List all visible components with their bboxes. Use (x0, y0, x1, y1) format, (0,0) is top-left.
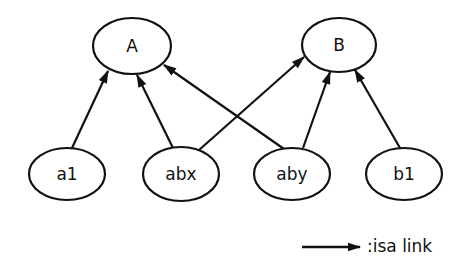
isa-link-aby-to-A (164, 65, 284, 149)
node-label: abx (165, 164, 196, 184)
node-label: a1 (56, 164, 77, 184)
node-A: A (93, 18, 171, 74)
node-aby: aby (254, 148, 330, 200)
isa-link-abx-to-A (137, 75, 173, 148)
isa-link-abx-to-B (199, 57, 304, 150)
node-label: b1 (393, 164, 415, 184)
legend: :isa link (302, 236, 432, 256)
isa-link-a1-to-A (72, 71, 108, 148)
isa-hierarchy-diagram: ABa1abxabyb1 :isa link (0, 0, 474, 270)
isa-link-aby-to-B (303, 72, 330, 148)
node-a1: a1 (29, 148, 105, 200)
node-label: aby (276, 164, 307, 184)
isa-link-b1-to-B (355, 70, 400, 148)
node-label: B (333, 35, 345, 55)
legend-label: :isa link (367, 236, 432, 256)
node-label: A (126, 36, 138, 56)
node-abx: abx (143, 147, 219, 201)
node-B: B (302, 18, 376, 72)
node-b1: b1 (366, 148, 442, 200)
